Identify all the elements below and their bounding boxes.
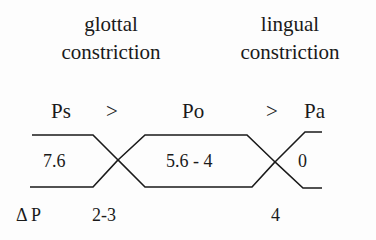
- delta-p-label: Δ P: [16, 206, 41, 224]
- value-oral: 5.6 - 4: [166, 152, 213, 170]
- delta-lingual: 4: [271, 206, 280, 224]
- value-atmospheric: 0: [298, 152, 307, 170]
- vocal-tract-diagram: [0, 0, 376, 240]
- value-subglottal: 7.6: [43, 152, 66, 170]
- delta-glottal: 2-3: [92, 206, 116, 224]
